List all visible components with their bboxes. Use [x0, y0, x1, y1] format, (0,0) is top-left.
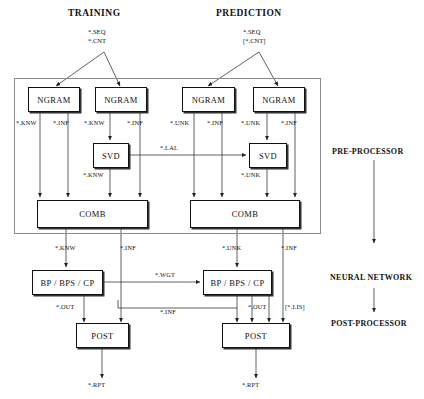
- label-comb-pred-inf: *.INF: [281, 244, 297, 251]
- label-ngram-pred2-inf: *.INF: [281, 119, 297, 126]
- node-ngram-train-2[interactable]: NGRAM: [95, 87, 147, 112]
- label-svd-train-knw: *.KNW: [83, 171, 104, 178]
- node-comb-train-label: COMB: [79, 209, 106, 219]
- label-bp-pred-lis: [*.LIS]: [285, 303, 305, 310]
- input-training-seq: *.SEQ: [88, 28, 106, 37]
- node-comb-pred-label: COMB: [232, 209, 259, 219]
- node-post-train[interactable]: POST: [76, 323, 129, 348]
- input-prediction-labels: *.SEQ [*.CNT]: [243, 28, 266, 45]
- diagram-canvas: TRAINING PREDICTION *.SEQ *.CNT *.SEQ [*…: [0, 0, 424, 399]
- input-training-cnt: *.CNT: [88, 37, 106, 46]
- label-bp-pred-out: *.OUT: [248, 303, 267, 310]
- node-post-train-label: POST: [91, 331, 113, 341]
- node-bp-pred-label: BP / BPS / CP: [210, 278, 264, 288]
- label-bp-train-out: *.OUT: [56, 303, 75, 310]
- label-ngram-pred1-unk: *.UNK: [170, 119, 189, 126]
- node-bp-pred[interactable]: BP / BPS / CP: [203, 270, 272, 295]
- node-svd-train-label: SVD: [102, 151, 120, 161]
- label-ngram-pred1-inf: *.INF: [207, 119, 223, 126]
- label-bp-inf-feedback: *.INF: [160, 308, 176, 315]
- node-ngram-train-1[interactable]: NGRAM: [28, 87, 80, 112]
- label-ngram-train1-inf: *.INF: [53, 119, 69, 126]
- node-ngram-train-2-label: NGRAM: [104, 95, 138, 105]
- label-ngram-train2-inf: *.INF: [127, 119, 143, 126]
- node-ngram-pred-1[interactable]: NGRAM: [182, 87, 235, 112]
- label-comb-train-knw: *.KNW: [55, 244, 76, 251]
- label-comb-train-inf: *.INF: [120, 244, 136, 251]
- node-bp-train[interactable]: BP / BPS / CP: [32, 270, 103, 295]
- label-post-train-rpt: *.RPT: [88, 381, 105, 388]
- label-ngram-pred2-unk: *.UNK: [241, 119, 260, 126]
- node-ngram-pred-1-label: NGRAM: [192, 95, 226, 105]
- node-comb-pred[interactable]: COMB: [190, 200, 300, 228]
- node-bp-train-label: BP / BPS / CP: [40, 278, 94, 288]
- input-prediction-cnt: [*.CNT]: [243, 37, 266, 46]
- node-svd-pred[interactable]: SVD: [249, 143, 287, 168]
- label-svd-lal: *.LAL: [160, 144, 178, 151]
- label-ngram-train1-knw: *.KNW: [16, 119, 37, 126]
- stage-label-neural-network: NEURAL NETWORK: [330, 273, 412, 282]
- node-ngram-pred-2[interactable]: NGRAM: [253, 87, 305, 112]
- node-comb-train[interactable]: COMB: [37, 200, 148, 228]
- node-post-pred-label: POST: [245, 331, 267, 341]
- input-training-labels: *.SEQ *.CNT: [88, 28, 106, 45]
- title-training: TRAINING: [68, 8, 121, 18]
- stage-label-post-processor: POST-PROCESSOR: [331, 319, 407, 328]
- label-bp-wgt: *.WGT: [155, 271, 175, 278]
- node-post-pred[interactable]: POST: [222, 323, 290, 348]
- node-ngram-pred-2-label: NGRAM: [262, 95, 296, 105]
- edge-bp-inf-feedback: [118, 295, 237, 308]
- node-svd-train[interactable]: SVD: [93, 143, 129, 168]
- stage-label-pre-processor: PRE-PROCESSOR: [332, 147, 403, 156]
- input-prediction-seq: *.SEQ: [243, 28, 266, 37]
- title-prediction: PREDICTION: [216, 8, 282, 18]
- node-svd-pred-label: SVD: [259, 151, 277, 161]
- label-svd-pred-unk: *.UNK: [241, 171, 260, 178]
- label-ngram-train2-knw: *.KNW: [84, 119, 105, 126]
- node-ngram-train-1-label: NGRAM: [37, 95, 71, 105]
- label-post-pred-rpt: *.RPT: [242, 381, 259, 388]
- label-comb-pred-unk: *.UNK: [222, 244, 241, 251]
